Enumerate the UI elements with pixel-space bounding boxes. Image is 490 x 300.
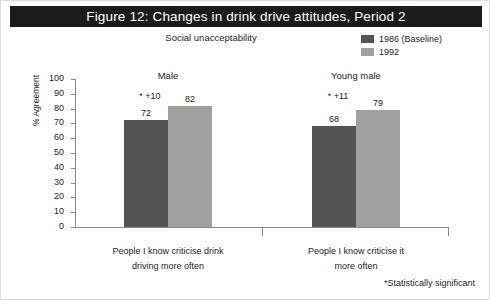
y-axis-tick-label: 20 <box>54 191 64 201</box>
y-axis-tick: 40 <box>71 168 75 169</box>
x-axis-category-label-line: People I know criticise it <box>266 244 446 259</box>
figure-container: Figure 12: Changes in drink drive attitu… <box>0 0 490 300</box>
y-axis-tick-label: 40 <box>54 162 64 172</box>
figure-title: Figure 12: Changes in drink drive attitu… <box>86 9 405 24</box>
y-axis-tick-label: 60 <box>54 132 64 142</box>
chart-legend: 1986 (Baseline) 1992 <box>361 32 442 58</box>
y-axis-tick: 100 <box>71 79 75 80</box>
bar: 72 <box>124 120 168 227</box>
group-delta-annotation: * +10 <box>139 91 160 101</box>
legend-item-1992: 1992 <box>361 45 442 58</box>
legend-swatch-1986 <box>361 35 374 43</box>
x-axis-category-label: People I know criticise itmore often <box>266 244 446 274</box>
group-delta-annotation: * +11 <box>328 91 349 101</box>
bar-value-label: 68 <box>312 114 356 124</box>
x-axis-category-label-line: People I know criticise drink <box>78 244 258 259</box>
bar-value-label: 79 <box>356 98 400 108</box>
y-axis-line <box>75 79 76 227</box>
x-axis-category-label-line: more often <box>266 259 446 274</box>
y-axis-tick-label: 10 <box>54 206 64 216</box>
bar-value-label: 82 <box>168 94 212 104</box>
figure-footnote: *Statistically significant <box>384 278 475 288</box>
legend-label-1992: 1992 <box>379 47 399 57</box>
x-axis-category-label-line: driving more often <box>78 259 258 274</box>
y-axis-tick-label: 100 <box>49 73 64 83</box>
y-axis-tick: 50 <box>71 153 75 154</box>
y-axis-tick: 60 <box>71 138 75 139</box>
group-title: Male <box>158 70 179 81</box>
legend-label-1986: 1986 (Baseline) <box>379 34 442 44</box>
y-axis-tick: 20 <box>71 197 75 198</box>
y-axis-tick: 70 <box>71 123 75 124</box>
figure-subtitle: Social unacceptability <box>1 32 421 43</box>
bar: 68 <box>312 126 356 227</box>
y-axis-tick: 10 <box>71 212 75 213</box>
y-axis-tick-label: 80 <box>54 103 64 113</box>
y-axis-tick: 90 <box>71 94 75 95</box>
bar: 79 <box>356 110 400 227</box>
y-axis-tick: 80 <box>71 109 75 110</box>
y-axis-title: % Agreement <box>31 75 41 126</box>
y-axis-tick-label: 90 <box>54 88 64 98</box>
group-title: Young male <box>331 70 381 81</box>
y-axis-tick-label: 70 <box>54 117 64 127</box>
legend-swatch-1992 <box>361 48 374 56</box>
y-axis-tick-label: 50 <box>54 147 64 157</box>
y-axis-tick: 0 <box>71 227 75 228</box>
y-axis-tick-label: 30 <box>54 177 64 187</box>
bar: 82 <box>168 106 212 227</box>
x-axis-end-tick <box>448 227 449 236</box>
x-axis-category-label: People I know criticise drinkdriving mor… <box>78 244 258 274</box>
figure-title-band: Figure 12: Changes in drink drive attitu… <box>10 6 482 27</box>
legend-item-1986: 1986 (Baseline) <box>361 32 442 45</box>
y-axis-tick: 30 <box>71 183 75 184</box>
plot-area: 1009080706050403020100 72826879 Male* +1… <box>75 79 449 227</box>
bar-value-label: 72 <box>124 108 168 118</box>
x-axis-category-separator <box>262 227 263 236</box>
y-axis-tick-label: 0 <box>59 221 64 231</box>
